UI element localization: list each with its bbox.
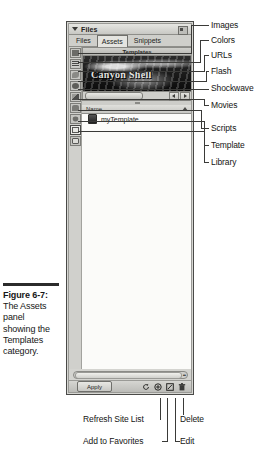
tab-files[interactable]: Files	[71, 34, 96, 46]
caption-line-6: category.	[3, 346, 61, 357]
panel-tab-bar: Files Assets Snippets	[69, 35, 191, 47]
caption-line-2: The Assets	[3, 301, 61, 312]
caption-line-1: Figure 6-7:	[3, 290, 61, 301]
apply-button[interactable]: Apply	[77, 381, 112, 392]
callout-label-scripts: Scripts	[211, 123, 236, 133]
refresh-icon[interactable]	[142, 383, 150, 391]
callout-label-flash: Flash	[211, 66, 231, 76]
caption-rule	[3, 283, 59, 286]
callout-line-images-h2	[78, 53, 192, 54]
assets-panel-inner: Files Files Assets Snippets Templates Ca…	[68, 23, 192, 393]
callout-label-shockwave: Shockwave	[211, 83, 254, 93]
trash-icon[interactable]	[178, 383, 186, 391]
library-icon[interactable]	[70, 136, 81, 146]
caption-line-5: Templates	[3, 335, 61, 346]
callout-line-shockwave	[78, 89, 209, 90]
callout-line-library-h2	[78, 131, 205, 132]
callout-label-colors: Colors	[211, 35, 235, 45]
panel-options-icon[interactable]	[178, 26, 188, 35]
callout-line-library-v	[204, 131, 205, 163]
tab-assets[interactable]: Assets	[97, 35, 128, 47]
callout-label-images: Images	[211, 20, 238, 30]
shockwave-icon[interactable]	[70, 92, 81, 102]
callout-line-urls-h2	[78, 71, 205, 72]
assets-panel: Files Files Assets Snippets Templates Ca…	[66, 21, 194, 395]
panel-title: Files	[81, 26, 97, 33]
callout-line-flash-v	[206, 71, 207, 81]
callout-label-edit: Edit	[180, 436, 194, 446]
callout-line-images	[191, 25, 209, 26]
asset-list: myTemplate	[82, 114, 191, 369]
callout-line-movies-v	[204, 99, 205, 106]
toolbar-icon-group	[142, 383, 191, 391]
caption-line-4: showing the	[3, 324, 61, 335]
category-icon-strip	[69, 47, 82, 369]
template-file-icon	[88, 114, 97, 124]
figure-caption: Figure 6-7: The Assets panel showing the…	[3, 283, 61, 357]
edit-icon[interactable]	[166, 383, 174, 391]
callout-label-delete: Delete	[180, 414, 204, 424]
tab-snippets[interactable]: Snippets	[129, 34, 166, 46]
callout-line-scripts	[201, 128, 209, 129]
callout-line-delete	[183, 398, 184, 415]
callout-line-template-h2	[78, 121, 205, 122]
callout-line-flash-h2	[78, 81, 207, 82]
add-favorites-icon[interactable]	[154, 383, 162, 391]
colors-icon[interactable]	[70, 59, 81, 69]
panel-bottom-scrollbar[interactable]: ••	[73, 371, 188, 379]
callout-line-scripts-v	[201, 110, 202, 129]
callout-line-add-fav	[167, 398, 168, 442]
callout-label-movies: Movies	[211, 100, 237, 110]
callout-line-images-v	[191, 25, 192, 53]
callout-label-urls: URLs	[211, 50, 232, 60]
callout-label-template: Template	[211, 140, 245, 150]
callout-line-movies-h2	[78, 99, 205, 100]
triangle-down-icon[interactable]	[72, 27, 78, 31]
callout-line-colors-v	[200, 40, 201, 62]
callout-line-scripts-h2	[78, 110, 202, 111]
callout-line-colors	[200, 40, 209, 41]
category-header: Templates	[82, 47, 191, 56]
callout-label-add-to-favorites: Add to Favorites	[83, 436, 143, 446]
callout-line-urls-v	[204, 55, 205, 71]
callout-line-add-fav-h	[162, 441, 168, 442]
column-header-name[interactable]: Name	[82, 106, 182, 112]
panel-toolbar: Apply	[69, 380, 191, 392]
callout-label-library: Library	[211, 157, 236, 167]
scripts-icon[interactable]	[70, 114, 81, 124]
scroll-arrows-icon[interactable]: ••	[183, 372, 187, 378]
callout-line-colors-h2	[78, 62, 201, 63]
callout-line-edit	[175, 398, 176, 442]
table-row[interactable]: myTemplate	[82, 114, 191, 124]
caption-line-3: panel	[3, 312, 61, 323]
movies-icon[interactable]	[70, 103, 81, 113]
callout-label-refresh-site-list: Refresh Site List	[83, 414, 144, 424]
bottom-scrollbar-thumb[interactable]	[75, 372, 182, 379]
callout-line-edit-h	[175, 441, 180, 442]
template-icon[interactable]	[70, 125, 81, 135]
callout-line-refresh	[160, 398, 161, 420]
